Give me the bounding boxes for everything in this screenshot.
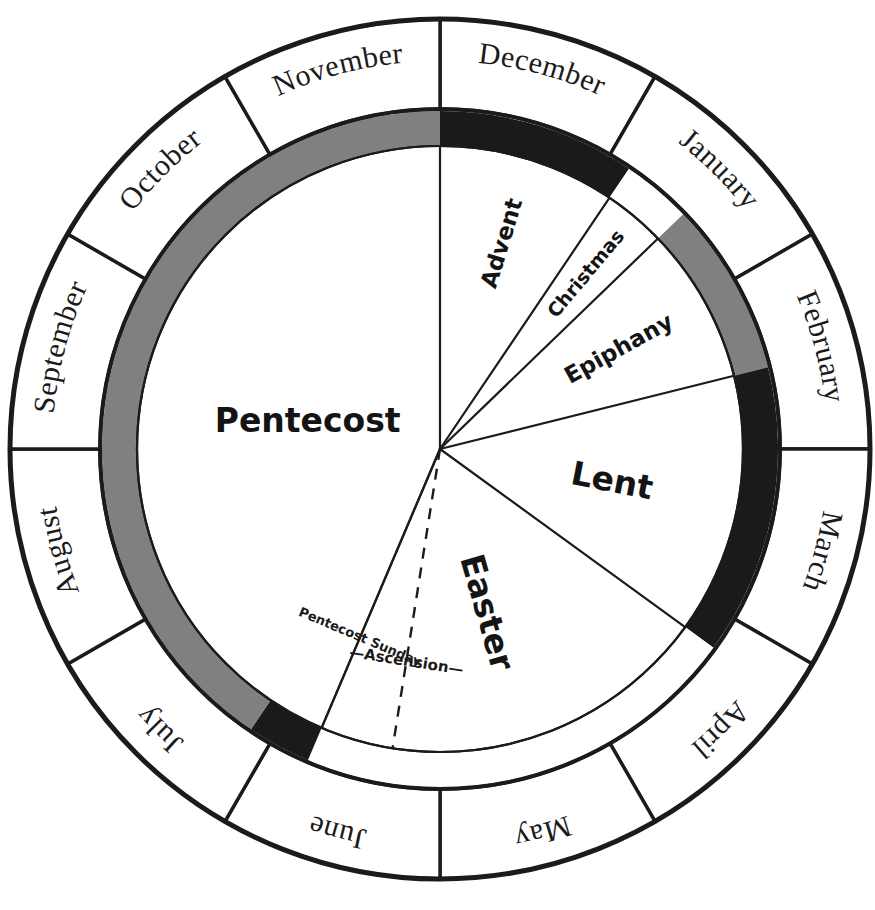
- season-label-pentecost: Pentecost: [215, 401, 401, 440]
- liturgical-calendar-wheel: DecemberJanuaryFebruaryMarchAprilMayJune…: [0, 0, 875, 910]
- wheel-svg: DecemberJanuaryFebruaryMarchAprilMayJune…: [0, 0, 875, 910]
